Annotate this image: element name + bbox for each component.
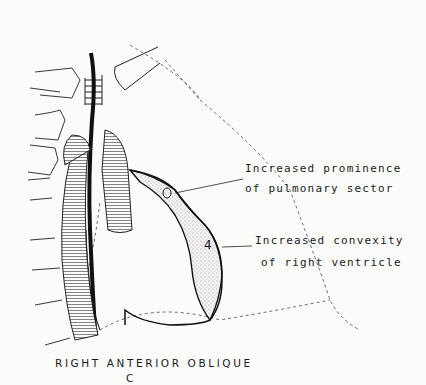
clavicle: [114, 47, 160, 90]
annotation-pulmonary-line1: Increased prominence: [245, 162, 401, 176]
annotation-ventricle-line1: Increased convexity: [255, 234, 404, 248]
leader-ventricle: [222, 246, 252, 247]
view-title: RIGHT ANTERIOR OBLIQUE: [55, 357, 253, 369]
leader-pulmonary: [175, 179, 243, 193]
annotation-ventricle-line2: of right ventricle: [261, 256, 402, 270]
annotation-pulmonary-line2: of pulmonary sector: [245, 182, 394, 196]
ascending-vessel: [102, 130, 132, 233]
marker-4: 4: [204, 238, 212, 252]
panel-letter: C: [126, 372, 136, 384]
